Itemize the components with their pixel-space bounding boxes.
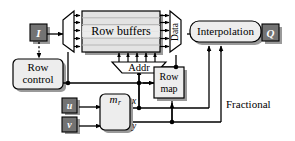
interpolation-block [190, 21, 261, 42]
row-control-block [13, 59, 63, 89]
junction-addr-bus [137, 81, 142, 86]
junction-datamux-addr [174, 65, 179, 70]
row-buffers-block [82, 11, 160, 52]
mapper-block [100, 94, 130, 130]
junction-x-addr [137, 106, 142, 111]
junction-y-rowmap [170, 120, 175, 125]
junction-rowcontrol-demux [66, 81, 71, 86]
block-diagram: I Q u v Row control Row buffers Data Add… [0, 0, 295, 141]
demux-output-arrows [74, 16, 80, 47]
row-map-block [154, 67, 184, 98]
row-demux [63, 11, 74, 52]
data-mux [170, 11, 181, 52]
diagram-canvas [0, 0, 295, 141]
